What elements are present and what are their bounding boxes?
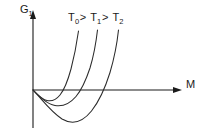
legend-term-T2-subscript: 2 [119,17,123,26]
axes-group [30,10,182,128]
x-axis-arrowhead [173,87,182,93]
free-energy-figure: G1 M T0> T1> T2 [0,0,204,133]
legend-term-T2: T2 [112,11,123,23]
legend-term-T0-subscript: 0 [75,17,79,26]
legend-relation-1: > [102,11,109,23]
x-axis-label: M [186,79,195,90]
y-axis-label-main: G [20,3,29,15]
y-axis-label: G1 [20,4,33,15]
legend-term-T0: T0 [68,11,79,23]
curves-group [33,30,119,122]
curve-T1 [33,30,98,106]
y-axis-label-subscript: 1 [29,9,33,18]
x-axis-label-main: M [186,78,195,90]
legend-relation-0: > [80,11,87,23]
legend-term-T0-main: T [68,11,75,23]
legend-term-T1: T1 [90,11,101,23]
temperature-ordering-annotation: T0> T1> T2 [68,11,124,23]
legend-term-T1-subscript: 1 [97,17,101,26]
curve-T2 [33,30,119,122]
